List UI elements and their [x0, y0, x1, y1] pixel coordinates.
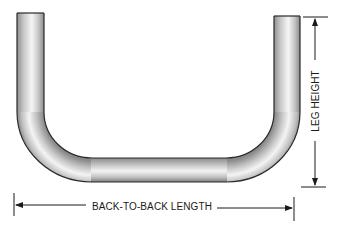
leg-height-dimension: LEG HEIGHT	[301, 17, 328, 187]
u-bend-diagram: LEG HEIGHT BACK-TO-BACK LENGTH	[0, 0, 342, 230]
pipe-left-leg	[17, 13, 44, 113]
back-to-back-dimension: BACK-TO-BACK LENGTH	[14, 193, 294, 221]
u-bend-pipe	[17, 13, 300, 182]
pipe-right-bend	[226, 112, 300, 182]
pipe-bottom	[91, 158, 227, 182]
back-to-back-label: BACK-TO-BACK LENGTH	[92, 201, 212, 212]
pipe-right-leg	[274, 16, 300, 113]
leg-height-label: LEG HEIGHT	[310, 70, 321, 132]
pipe-left-bend	[17, 112, 92, 182]
